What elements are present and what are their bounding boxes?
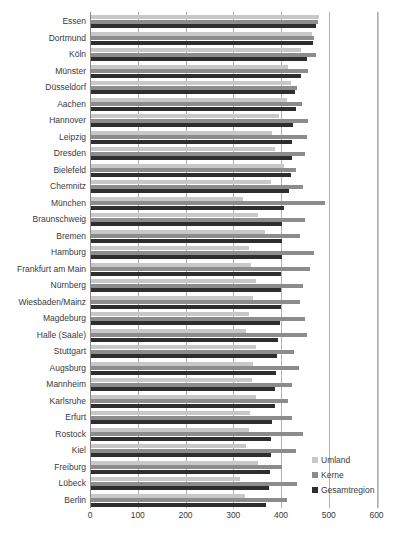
- bar-gesamtregion: [91, 90, 295, 94]
- bar-kerne: [91, 482, 297, 486]
- x-tick-label: 0: [88, 510, 93, 520]
- bar-kerne: [91, 350, 294, 354]
- bar-umland: [91, 246, 249, 250]
- category-label: Magdeburg: [43, 313, 86, 323]
- x-tick-label: 300: [226, 510, 240, 520]
- category-label: Frankfurt am Main: [17, 264, 86, 274]
- bar-kerne: [91, 267, 310, 271]
- category-label: Mannheim: [46, 379, 86, 389]
- bar-gesamtregion: [91, 338, 278, 342]
- bar-kerne: [91, 53, 316, 57]
- bar-gesamtregion: [91, 503, 266, 507]
- category-label: Karlsruhe: [50, 396, 86, 406]
- bar-umland: [91, 428, 249, 432]
- bar-kerne: [91, 333, 307, 337]
- bar-gesamtregion: [91, 470, 270, 474]
- legend-item-gesamtregion: Gesamtregion: [312, 482, 374, 497]
- bar-umland: [91, 279, 256, 283]
- bar-gesamtregion: [91, 123, 293, 127]
- bar-umland: [91, 147, 275, 151]
- category-label: Wiesbaden/Mainz: [18, 297, 86, 307]
- bar-kerne: [91, 86, 297, 90]
- bar-kerne: [91, 168, 296, 172]
- category-label: Chemnitz: [50, 181, 86, 191]
- category-label: Aachen: [57, 99, 86, 109]
- bar-kerne: [91, 234, 300, 238]
- bar-kerne: [91, 69, 308, 73]
- category-label: Augsburg: [50, 363, 86, 373]
- bar-umland: [91, 213, 258, 217]
- bar-kerne: [91, 383, 292, 387]
- bar-gesamtregion: [91, 206, 284, 210]
- bar-kerne: [91, 284, 303, 288]
- x-tick-label: 400: [274, 510, 288, 520]
- bar-kerne: [91, 251, 314, 255]
- category-label: Braunschweig: [33, 214, 86, 224]
- bar-kerne: [91, 465, 282, 469]
- bar-gesamtregion: [91, 272, 281, 276]
- bar-gesamtregion: [91, 486, 269, 490]
- bar-gesamtregion: [91, 321, 280, 325]
- category-label: Düsseldorf: [45, 82, 86, 92]
- category-label: München: [51, 198, 86, 208]
- bar-kerne: [91, 152, 305, 156]
- bar-kerne: [91, 185, 303, 189]
- bar-umland: [91, 362, 253, 366]
- bar-gesamtregion: [91, 74, 301, 78]
- legend-swatch-gesamtregion: [312, 487, 318, 493]
- bar-kerne: [91, 201, 325, 205]
- bar-gesamtregion: [91, 387, 275, 391]
- category-label: Dortmund: [49, 33, 86, 43]
- bar-gesamtregion: [91, 156, 292, 160]
- bar-umland: [91, 15, 319, 19]
- bar-kerne: [91, 449, 296, 453]
- bar-umland: [91, 411, 250, 415]
- bar-umland: [91, 197, 243, 201]
- category-label: Freiburg: [54, 462, 86, 472]
- bar-kerne: [91, 20, 318, 24]
- legend-label: Kerne: [321, 470, 344, 480]
- bar-umland: [91, 81, 291, 85]
- bar-umland: [91, 345, 256, 349]
- bar-umland: [91, 263, 251, 267]
- category-label: Nürnberg: [51, 280, 86, 290]
- category-label: Erfurt: [65, 412, 86, 422]
- bar-gesamtregion: [91, 288, 281, 292]
- category-label: Köln: [69, 49, 86, 59]
- bar-gesamtregion: [91, 453, 271, 457]
- bar-kerne: [91, 498, 287, 502]
- bar-gesamtregion: [91, 140, 292, 144]
- category-label: Bielefeld: [53, 165, 86, 175]
- bar-umland: [91, 395, 256, 399]
- bar-umland: [91, 312, 249, 316]
- bar-kerne: [91, 218, 305, 222]
- bar-umland: [91, 114, 279, 118]
- x-tick-label: 600: [369, 510, 383, 520]
- bar-gesamtregion: [91, 239, 282, 243]
- category-label: Lübeck: [59, 478, 86, 488]
- bar-kerne: [91, 416, 292, 420]
- bar-umland: [91, 48, 301, 52]
- x-tick-label: 100: [131, 510, 145, 520]
- bar-umland: [91, 180, 271, 184]
- category-label: Kiel: [72, 445, 86, 455]
- bar-umland: [91, 494, 245, 498]
- legend-swatch-umland: [312, 457, 318, 463]
- bar-umland: [91, 477, 240, 481]
- category-label: Essen: [62, 16, 86, 26]
- bar-gesamtregion: [91, 305, 281, 309]
- legend-label: Gesamtregion: [321, 485, 374, 495]
- legend-item-kerne: Kerne: [312, 467, 374, 482]
- bar-gesamtregion: [91, 173, 291, 177]
- category-label: Hamburg: [51, 247, 86, 257]
- bar-umland: [91, 131, 272, 135]
- bar-umland: [91, 296, 253, 300]
- bar-gesamtregion: [91, 222, 282, 226]
- bar-gesamtregion: [91, 354, 277, 358]
- bar-kerne: [91, 300, 300, 304]
- bar-umland: [91, 444, 246, 448]
- legend-swatch-kerne: [312, 472, 318, 478]
- x-tick-label: 200: [178, 510, 192, 520]
- bar-kerne: [91, 366, 299, 370]
- bar-gesamtregion: [91, 189, 289, 193]
